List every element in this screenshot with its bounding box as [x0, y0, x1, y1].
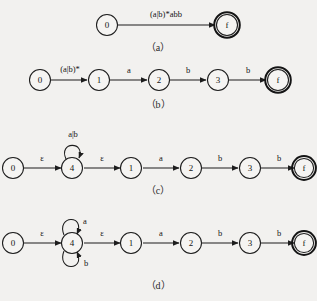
- state-label-b-3: 3: [216, 75, 221, 85]
- edge-label-c-4-1: ε: [100, 153, 104, 163]
- nfa-svg-canvas: (a|b)*abb 0 f （a） (a|b)* a b b 0 1 2: [0, 0, 317, 301]
- caption-b: （b）: [146, 99, 171, 110]
- state-label-c-1: 1: [129, 163, 134, 173]
- state-label-c-f: f: [303, 163, 306, 173]
- state-label-a-f: f: [226, 20, 229, 30]
- edge-label-b-2-3: b: [186, 65, 190, 75]
- state-label-d-0: 0: [11, 238, 16, 248]
- edge-label-d-0-4: ε: [40, 228, 44, 238]
- state-label-b-1: 1: [97, 75, 102, 85]
- caption-d: （d）: [146, 280, 171, 291]
- state-label-b-2: 2: [157, 75, 162, 85]
- state-label-d-2: 2: [189, 238, 194, 248]
- edge-label-d-3-f: b: [277, 228, 281, 238]
- edge-label-c-1-2: a: [159, 153, 163, 163]
- state-label-d-4: 4: [70, 238, 75, 248]
- edge-label-b-0-1: (a|b)*: [60, 64, 80, 74]
- self-loop-c-4: [65, 145, 81, 159]
- edge-label-c-3-f: b: [277, 153, 281, 163]
- nfa-figure: (a|b)*abb 0 f （a） (a|b)* a b b 0 1 2: [0, 0, 317, 301]
- edge-label-d-2-3: b: [218, 228, 222, 238]
- state-label-c-0: 0: [11, 163, 16, 173]
- edge-label-c-0-4: ε: [40, 153, 44, 163]
- state-label-b-0: 0: [38, 75, 43, 85]
- edge-label-d-4-loop-a: a: [83, 216, 87, 226]
- panel-c: ε a|b ε a b b 0 4 1 2 3 f （c）: [3, 129, 316, 196]
- state-label-d-3: 3: [248, 238, 253, 248]
- state-label-d-1: 1: [129, 238, 134, 248]
- state-label-d-f: f: [303, 238, 306, 248]
- edge-label-c-4-loop: a|b: [68, 129, 78, 139]
- caption-c: （c）: [146, 185, 170, 196]
- state-label-b-f: f: [277, 75, 280, 85]
- caption-a: （a）: [146, 42, 170, 53]
- state-label-c-2: 2: [189, 163, 194, 173]
- panel-a: (a|b)*abb 0 f （a）: [97, 9, 240, 53]
- state-label-c-4: 4: [70, 163, 75, 173]
- edge-label-a-0-f: (a|b)*abb: [150, 9, 182, 19]
- edge-label-d-4-loop-b: b: [84, 258, 88, 268]
- edge-label-b-3-f: b: [246, 65, 250, 75]
- panel-d: ε a b ε a b b 0 4 1 2 3 f: [3, 216, 316, 291]
- edge-label-d-4-1: ε: [100, 228, 104, 238]
- state-label-a-0: 0: [105, 20, 110, 30]
- edge-label-c-2-3: b: [218, 153, 222, 163]
- edge-label-b-1-2: a: [127, 65, 131, 75]
- state-label-c-3: 3: [248, 163, 253, 173]
- edge-label-d-1-2: a: [159, 228, 163, 238]
- panel-b: (a|b)* a b b 0 1 2 3 f （b）: [30, 64, 291, 110]
